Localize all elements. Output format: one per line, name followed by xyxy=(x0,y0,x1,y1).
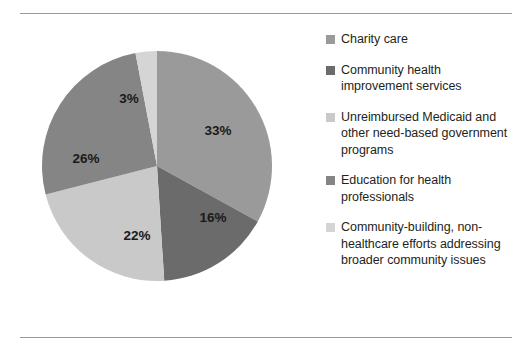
legend-item-label: Community-building, non-healthcare effor… xyxy=(341,219,516,269)
legend-item-label: Community health improvement services xyxy=(341,62,516,95)
pie-slice-group xyxy=(42,51,272,281)
pie-slice-value-label: 22% xyxy=(123,228,150,243)
legend-item[interactable]: Community health improvement services xyxy=(326,62,516,95)
legend-item-label: Unreimbursed Medicaid and other need-bas… xyxy=(341,109,516,159)
legend-item-label: Education for health professionals xyxy=(341,172,516,205)
top-divider-rule xyxy=(20,13,512,14)
legend-swatch-icon xyxy=(326,66,335,75)
legend-swatch-icon xyxy=(326,35,335,44)
legend-swatch-icon xyxy=(326,223,335,232)
legend-item[interactable]: Charity care xyxy=(326,31,516,48)
pie-chart: 33%16%22%26%3% xyxy=(30,38,286,296)
legend-item[interactable]: Community-building, non-healthcare effor… xyxy=(326,219,516,269)
legend-swatch-icon xyxy=(326,176,335,185)
pie-chart-svg: 33%16%22%26%3% xyxy=(30,38,286,296)
chart-legend: Charity careCommunity health improvement… xyxy=(326,31,516,283)
legend-item[interactable]: Unreimbursed Medicaid and other need-bas… xyxy=(326,109,516,159)
legend-item-label: Charity care xyxy=(341,31,408,48)
pie-slice-value-label: 16% xyxy=(199,210,226,225)
pie-slice-value-label: 33% xyxy=(204,123,231,138)
legend-item[interactable]: Education for health professionals xyxy=(326,172,516,205)
legend-swatch-icon xyxy=(326,113,335,122)
pie-slice-value-label: 3% xyxy=(119,91,139,106)
pie-slice-value-label: 26% xyxy=(72,151,99,166)
bottom-divider-rule xyxy=(20,337,512,338)
pie-chart-figure: 33%16%22%26%3% Charity careCommunity hea… xyxy=(0,0,526,352)
